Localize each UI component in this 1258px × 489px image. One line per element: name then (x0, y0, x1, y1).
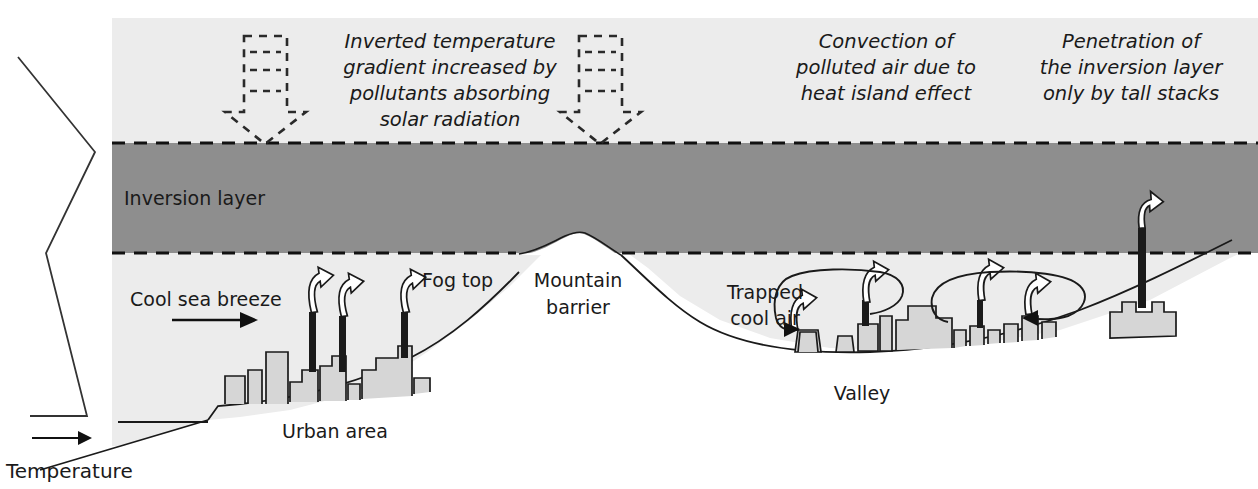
penetration-note: Penetration of the inversion layer only … (1040, 30, 1225, 105)
temperature-profile-line (18, 57, 95, 416)
note-line: gradient increased by (343, 56, 557, 79)
note-line: the inversion layer (1040, 56, 1225, 79)
note-line: Penetration of (1062, 30, 1203, 53)
inversion-layer-label: Inversion layer (124, 187, 265, 209)
note-line: only by tall stacks (1043, 82, 1219, 105)
temperature-axis-label: Temperature (5, 459, 133, 483)
note-line: pollutants absorbing (349, 82, 550, 105)
urban-area-label: Urban area (282, 420, 388, 442)
note-line: Inverted temperature (345, 30, 556, 53)
inversion-layer-band (112, 143, 1258, 268)
label-line: Mountain (534, 269, 623, 291)
diagram-canvas: Temperature (0, 0, 1258, 489)
label-line: cool air (730, 307, 800, 329)
mountain-barrier-label: Mountain barrier (534, 269, 623, 318)
cool-sea-breeze-label: Cool sea breeze (130, 288, 282, 310)
label-line: barrier (546, 296, 610, 318)
valley-label: Valley (834, 382, 891, 404)
fog-top-label: Fog top (422, 269, 493, 291)
label-line: Trapped (726, 281, 803, 303)
note-line: solar radiation (380, 108, 521, 131)
note-line: Convection of (819, 30, 957, 53)
note-line: heat island effect (801, 82, 973, 105)
temperature-increasing-arrow (32, 431, 92, 445)
note-line: polluted air due to (795, 56, 976, 79)
convection-note: Convection of polluted air due to heat i… (795, 30, 976, 105)
